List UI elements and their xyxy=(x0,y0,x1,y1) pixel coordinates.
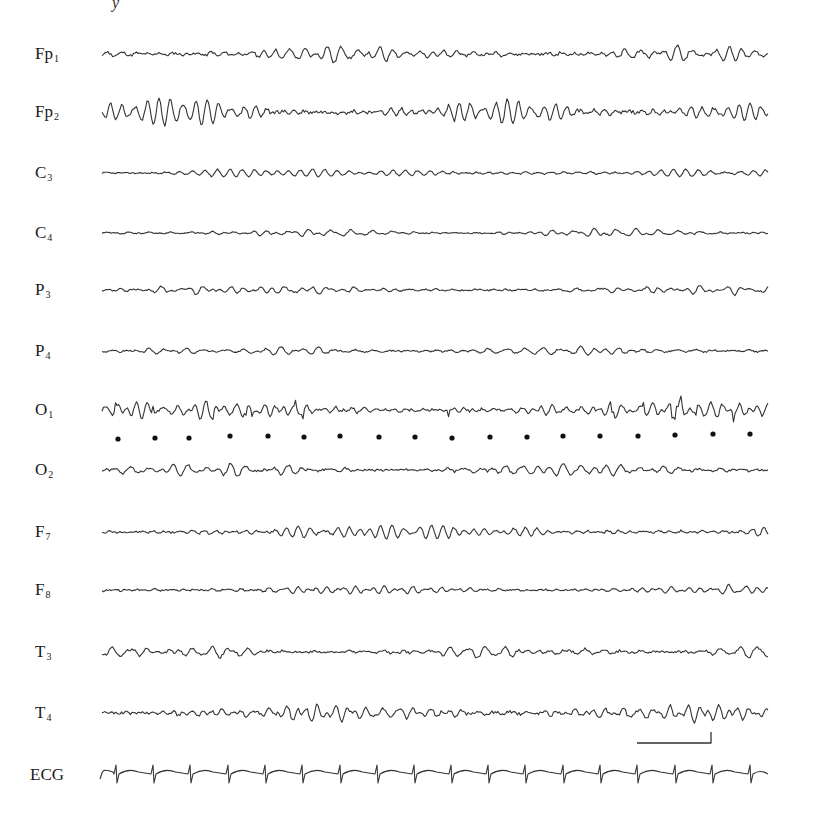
timing-dot xyxy=(186,435,191,440)
ecg-trace xyxy=(100,765,768,783)
eeg-trace xyxy=(102,704,768,723)
eeg-trace xyxy=(102,169,768,177)
eeg-trace xyxy=(102,584,768,594)
timing-dot xyxy=(337,433,342,438)
timing-dot xyxy=(412,434,417,439)
eeg-figure: y Fp1Fp2C3C4P3P4O1O2F7F8T3T4ECG xyxy=(0,0,817,830)
timing-dot xyxy=(710,431,715,436)
timing-dot xyxy=(301,434,306,439)
eeg-trace xyxy=(102,646,768,658)
eeg-trace xyxy=(102,45,768,63)
eeg-trace xyxy=(102,228,768,236)
timing-dot xyxy=(672,432,677,437)
timing-dot xyxy=(487,434,492,439)
timing-dot xyxy=(265,433,270,438)
eeg-trace xyxy=(102,286,768,296)
timing-dot xyxy=(560,433,565,438)
timing-dot xyxy=(635,433,640,438)
eeg-traces xyxy=(0,0,817,830)
timing-dot xyxy=(524,434,529,439)
eeg-trace xyxy=(102,346,768,355)
eeg-trace xyxy=(102,98,768,126)
timing-dot xyxy=(597,433,602,438)
timing-dot xyxy=(376,434,381,439)
timing-dot xyxy=(227,433,232,438)
eeg-trace xyxy=(102,463,768,476)
timing-dot xyxy=(449,435,454,440)
timing-dot xyxy=(152,435,157,440)
eeg-trace xyxy=(102,525,768,539)
eeg-trace xyxy=(102,396,768,422)
calibration-bar xyxy=(637,732,711,743)
timing-dot xyxy=(115,436,120,441)
timing-dot xyxy=(747,431,752,436)
